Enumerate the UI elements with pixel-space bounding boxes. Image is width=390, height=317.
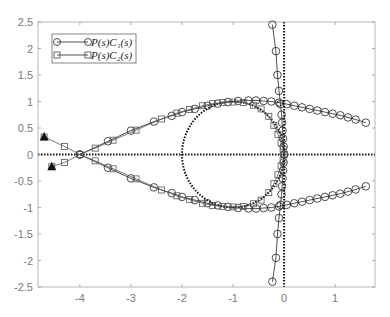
y-tick-label: 0 [27, 149, 33, 161]
y-tick-label: -0.5 [14, 175, 33, 187]
y-tick-label: -2 [23, 255, 33, 267]
x-tick-label: -3 [126, 292, 136, 304]
legend-label-2: P(s)C₂(s) [90, 49, 132, 62]
x-tick-label: 0 [281, 292, 287, 304]
x-tick-label: -1 [228, 292, 238, 304]
y-tick-label: 0.5 [18, 122, 33, 134]
y-tick-label: -1.5 [14, 228, 33, 240]
x-tick-label: 1 [332, 292, 338, 304]
legend-label-1: P(s)C₁(s) [90, 36, 132, 49]
y-tick-label: 1 [27, 96, 33, 108]
y-tick-label: 1.5 [18, 69, 33, 81]
y-tick-label: -1 [23, 202, 33, 214]
y-tick-label: 2 [27, 43, 33, 55]
y-tick-label: 2.5 [18, 16, 33, 28]
y-tick-label: -2.5 [14, 281, 33, 293]
x-tick-label: -4 [75, 292, 85, 304]
legend: P(s)C₁(s) P(s)C₂(s) [52, 34, 136, 63]
x-tick-label: -2 [177, 292, 187, 304]
nyquist-chart: -4-3-2-101 2.521.510.50-0.5-1-1.5-2-2.5 … [0, 0, 390, 317]
